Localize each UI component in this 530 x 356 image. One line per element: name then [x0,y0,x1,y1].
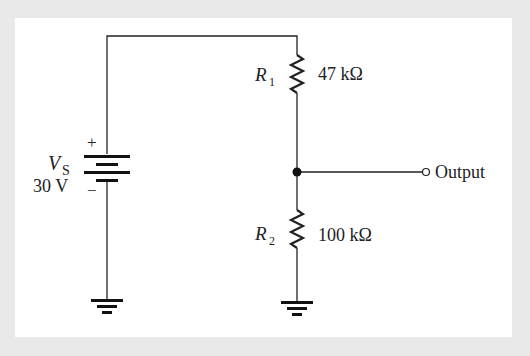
r1-value: 47 kΩ [318,64,363,84]
source-value: 30 V [33,176,68,196]
output-label: Output [435,162,485,182]
ground-icon [91,299,123,314]
ground-icon [281,301,313,316]
r1-name: R [254,64,267,85]
source-name: V [48,152,63,174]
output-terminal [423,169,430,176]
battery-symbol [84,155,130,182]
r1-subscript: 1 [269,75,275,89]
wire-top [107,36,297,154]
resistor-r1-symbol [291,55,303,93]
circuit-diagram: + − V S 30 V R 1 47 kΩ R 2 100 kΩ Output [0,0,530,356]
r2-value: 100 kΩ [318,225,372,245]
junction-node [293,168,302,177]
resistor-r2-symbol [291,210,303,248]
r2-subscript: 2 [269,234,275,248]
r2-name: R [254,223,267,244]
source-plus-sign: + [87,133,97,152]
source-minus-sign: − [87,181,97,200]
